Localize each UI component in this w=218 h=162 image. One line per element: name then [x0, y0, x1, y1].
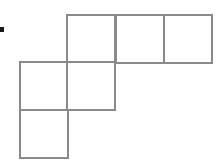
cell-middle-right: [67, 62, 115, 110]
cell-top-left: [67, 15, 115, 63]
cell-top-middle: [116, 15, 164, 63]
cell-top-right: [164, 15, 212, 63]
figure-canvas: [0, 0, 218, 162]
cell-middle-left: [20, 62, 68, 110]
cell-bottom-left: [20, 110, 68, 158]
grid-cells-group: [20, 15, 212, 158]
polyomino-diagram: [0, 0, 218, 162]
